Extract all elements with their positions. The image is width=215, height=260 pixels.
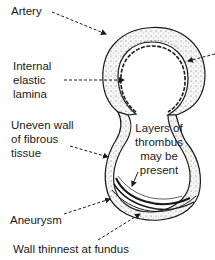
label-thrombus-line2: thrombus [130, 135, 188, 149]
label-uneven-wall-line1: Uneven wall [11, 118, 74, 132]
label-uneven-wall-line2: of fibrous [11, 132, 58, 146]
label-thrombus-line4: present [130, 163, 188, 177]
label-wall-thinnest-at-fundus: Wall thinnest at fundus [13, 242, 129, 256]
aneurysm-leader [64, 199, 110, 214]
fibrous-wall-leader [70, 146, 108, 157]
artery-leader [52, 12, 106, 34]
label-internal-elastic-lamina-line3: lamina [13, 87, 47, 101]
artery-wall [103, 27, 205, 115]
label-internal-elastic-lamina-line1: Internal [13, 59, 51, 73]
label-internal-elastic-lamina-line2: elastic [13, 73, 46, 87]
label-aneurysm: Aneurysm [10, 213, 62, 227]
fundus-leader [98, 214, 140, 240]
label-thrombus-line1: Layers of [130, 121, 188, 135]
label-uneven-wall-line3: tissue [11, 146, 41, 160]
label-thrombus-line3: may be [130, 149, 188, 163]
label-artery: Artery [11, 4, 42, 18]
